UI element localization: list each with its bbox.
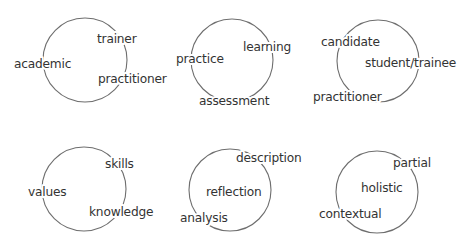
label-contextual: contextual	[319, 207, 382, 221]
label-holistic: holistic	[361, 181, 403, 195]
concept-circles-diagram: academic trainer practitioner practice l…	[0, 0, 467, 248]
label-practitioner: practitioner	[98, 72, 168, 86]
label-academic: academic	[14, 57, 71, 71]
label-values: values	[28, 185, 66, 199]
label-knowledge: knowledge	[89, 205, 153, 219]
label-assessment: assessment	[199, 94, 270, 108]
label-skills: skills	[105, 157, 134, 171]
label-analysis: analysis	[180, 211, 228, 225]
label-student-trainee: student/trainee	[365, 56, 456, 70]
label-learning: learning	[243, 40, 291, 54]
diagram-canvas: academic trainer practitioner practice l…	[0, 0, 467, 248]
label-candidate: candidate	[321, 35, 380, 49]
circles-layer	[42, 18, 419, 233]
label-trainer: trainer	[97, 32, 138, 46]
label-description: description	[236, 151, 302, 165]
label-reflection: reflection	[206, 185, 261, 199]
label-practice: practice	[176, 52, 224, 66]
label-partial: partial	[393, 156, 431, 170]
labels-layer: academic trainer practitioner practice l…	[14, 32, 456, 225]
label-practitioner: practitioner	[313, 90, 383, 104]
